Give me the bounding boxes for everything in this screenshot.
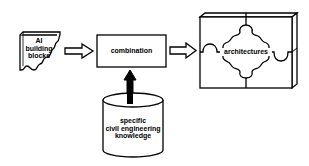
- arrow-to-architectures: [170, 43, 196, 58]
- label-line-building: building: [20, 45, 58, 53]
- label-line-ai: AI: [20, 37, 58, 45]
- arrow-to-combination: [65, 44, 93, 58]
- label-line-specific: specific: [103, 117, 163, 125]
- label-line-knowledge: knowledge: [103, 132, 163, 140]
- architectures-label: architectures: [220, 48, 272, 56]
- diagram-canvas: [0, 0, 309, 166]
- building-blocks-label: AI building blocks: [20, 37, 58, 60]
- combination-label: combination: [97, 47, 166, 55]
- label-line-blocks: blocks: [20, 52, 58, 60]
- label-line-civil-engineering: civil engineering: [103, 125, 163, 133]
- knowledge-label: specific civil engineering knowledge: [103, 117, 163, 140]
